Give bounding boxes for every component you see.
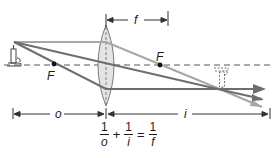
fraction-one-over-i: 1 i	[124, 121, 133, 148]
image-distance-label: i	[182, 108, 189, 120]
focal-point-left	[52, 62, 57, 67]
plus-sign: +	[113, 127, 121, 142]
fraction-one-over-f: 1 f	[149, 121, 158, 148]
fraction-one-over-o: 1 o	[100, 121, 109, 148]
equals-sign: =	[137, 127, 145, 142]
image-distance-dimension	[108, 108, 270, 119]
object-distance-label: o	[53, 108, 64, 120]
focal-length-label: f	[132, 14, 139, 26]
focal-point-left-label: F	[47, 70, 54, 82]
arrowhead-icon	[253, 84, 266, 94]
thin-lens-equation: 1 o + 1 i = 1 f	[100, 121, 157, 148]
arrowhead-icon	[252, 94, 264, 101]
focal-point-right-label: F	[156, 51, 163, 63]
object-candle-icon	[7, 45, 21, 66]
